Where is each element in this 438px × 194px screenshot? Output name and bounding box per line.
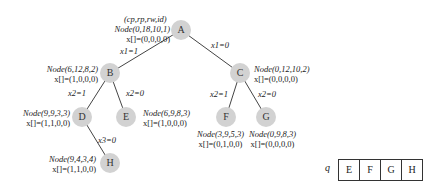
node-c-info: Node(0,12,10,2) x[]=(0,0,0,0) (254, 64, 309, 84)
node-b-vector: x[]=(1,0,0,0) (34, 74, 98, 84)
queue-cell: G (380, 159, 402, 181)
tree-node-g: G (256, 107, 276, 127)
node-g-info: Node(0,9,8,3) x[]=(0,0,0,0) (249, 129, 296, 149)
tree-node-e: E (116, 107, 136, 127)
edge-label-ac: x1=0 (211, 40, 229, 50)
edge-label-cf: x2=1 (210, 89, 228, 99)
node-e-vector: x[]=(1,0,0,0) (143, 118, 190, 128)
node-e-tuple: Node(6,9,8,3) (143, 108, 190, 118)
queue-cell: H (401, 159, 423, 181)
edge-label-dh: x3=0 (98, 135, 116, 145)
node-c-vector: x[]=(0,0,0,0) (254, 74, 309, 84)
node-e-info: Node(6,9,8,3) x[]=(1,0,0,0) (143, 108, 190, 128)
node-c-tuple: Node(0,12,10,2) (254, 64, 309, 74)
tree-node-c: C (230, 63, 250, 83)
node-h-vector: x[]=(1,1,0,0) (32, 164, 96, 174)
node-h-tuple: Node(9,4,3,4) (32, 154, 96, 164)
edge-label-cg: x2=0 (258, 89, 276, 99)
node-a-tuple: Node(0,18,10,1) (108, 24, 170, 34)
tree-node-f: F (216, 107, 236, 127)
node-f-tuple: Node(3,9,5,3) (197, 129, 244, 139)
node-a-info: Node(0,18,10,1) x[]=(0,0,0,0) (108, 24, 170, 44)
tree-node-h: H (100, 153, 120, 173)
tree-node-a: A (171, 20, 191, 40)
node-b-tuple: Node(6,12,8,2) (34, 64, 98, 74)
node-h-info: Node(9,4,3,4) x[]=(1,1,0,0) (32, 154, 96, 174)
queue: E F G H (339, 159, 423, 181)
queue-cell: E (338, 159, 360, 181)
edge-label-bd: x2=1 (68, 88, 86, 98)
queue-label: q (325, 162, 330, 173)
tree-node-b: B (100, 63, 120, 83)
node-f-vector: x[]=(0,1,0,0) (197, 139, 244, 149)
node-f-info: Node(3,9,5,3) x[]=(0,1,0,0) (197, 129, 244, 149)
queue-cell: F (359, 159, 381, 181)
node-a-vector: x[]=(0,0,0,0) (108, 34, 170, 44)
node-format-label: (cp,rp,rw,id) (124, 14, 167, 24)
node-d-info: Node(9,9,3,3) x[]=(1,1,0,0) (6, 108, 70, 128)
node-d-tuple: Node(9,9,3,3) (6, 108, 70, 118)
node-g-tuple: Node(0,9,8,3) (249, 129, 296, 139)
tree-node-d: D (72, 107, 92, 127)
edge-label-be: x2=0 (126, 88, 144, 98)
node-g-vector: x[]=(0,0,0,0) (249, 139, 296, 149)
edge-label-ab: x1=1 (120, 46, 138, 56)
node-b-info: Node(6,12,8,2) x[]=(1,0,0,0) (34, 64, 98, 84)
node-d-vector: x[]=(1,1,0,0) (6, 118, 70, 128)
